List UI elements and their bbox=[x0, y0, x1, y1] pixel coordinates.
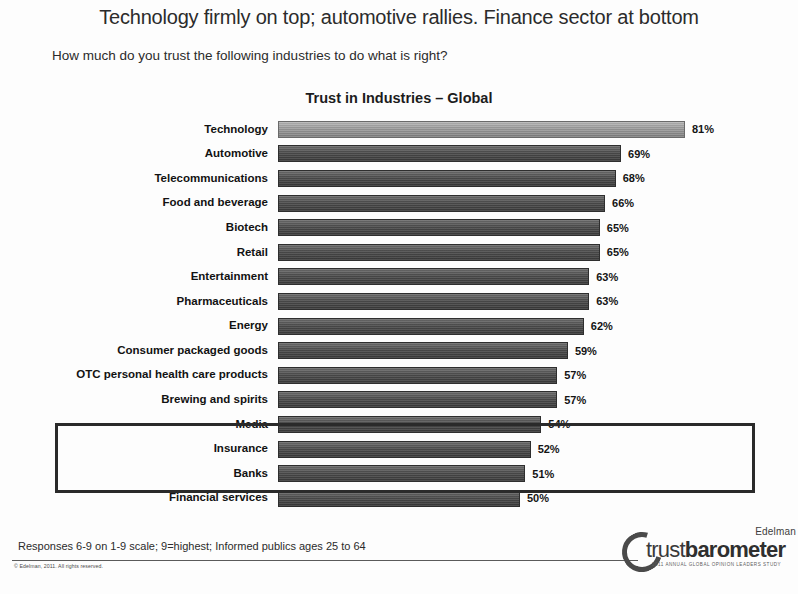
category-label: Energy bbox=[0, 320, 278, 332]
value-label: 81% bbox=[692, 123, 714, 135]
slide-headline: Technology firmly on top; automotive ral… bbox=[0, 6, 798, 29]
chart-row: Automotive69% bbox=[0, 142, 798, 167]
value-label: 68% bbox=[623, 172, 645, 184]
category-label: Banks bbox=[0, 468, 278, 480]
logo-wordmark: trustbarometer bbox=[646, 537, 785, 563]
category-label: Food and beverage bbox=[0, 197, 278, 209]
value-bar bbox=[278, 244, 600, 261]
logo-brand-label: Edelman bbox=[755, 526, 796, 537]
survey-question: How much do you trust the following indu… bbox=[52, 48, 447, 63]
bar-track: 66% bbox=[278, 191, 798, 216]
chart-row: Entertainment63% bbox=[0, 265, 798, 290]
chart-row: OTC personal health care products57% bbox=[0, 363, 798, 388]
value-bar bbox=[278, 195, 605, 212]
value-label: 52% bbox=[538, 443, 560, 455]
value-bar bbox=[278, 416, 541, 433]
bar-track: 51% bbox=[278, 461, 798, 486]
category-label: Financial services bbox=[0, 492, 278, 504]
value-bar bbox=[278, 293, 589, 310]
bar-track: 50% bbox=[278, 486, 798, 511]
value-bar bbox=[278, 268, 589, 285]
chart-row: Media54% bbox=[0, 412, 798, 437]
value-bar bbox=[278, 318, 584, 335]
category-label: Entertainment bbox=[0, 271, 278, 283]
chart-row: Technology81% bbox=[0, 117, 798, 142]
chart-title: Trust in Industries – Global bbox=[0, 90, 798, 106]
copyright-text: © Edelman, 2011. All rights reserved. bbox=[14, 563, 103, 569]
category-label: OTC personal health care products bbox=[0, 369, 278, 381]
value-label: 57% bbox=[564, 394, 586, 406]
chart-row: Pharmaceuticals63% bbox=[0, 289, 798, 314]
category-label: Pharmaceuticals bbox=[0, 296, 278, 308]
value-label: 50% bbox=[527, 492, 549, 504]
value-label: 63% bbox=[596, 295, 618, 307]
chart-row: Energy62% bbox=[0, 314, 798, 339]
value-bar bbox=[278, 391, 557, 408]
chart-row: Financial services50% bbox=[0, 486, 798, 511]
bar-track: 59% bbox=[278, 338, 798, 363]
logo-wordmark-bold: barometer bbox=[685, 537, 785, 562]
bar-track: 57% bbox=[278, 363, 798, 388]
value-label: 63% bbox=[596, 271, 618, 283]
value-label: 65% bbox=[607, 246, 629, 258]
category-label: Brewing and spirits bbox=[0, 394, 278, 406]
bar-track: 63% bbox=[278, 289, 798, 314]
category-label: Biotech bbox=[0, 222, 278, 234]
chart-row: Insurance52% bbox=[0, 437, 798, 462]
category-label: Insurance bbox=[0, 443, 278, 455]
value-bar bbox=[278, 490, 520, 507]
chart-row: Consumer packaged goods59% bbox=[0, 338, 798, 363]
bar-track: 81% bbox=[278, 117, 798, 142]
chart-row: Banks51% bbox=[0, 461, 798, 486]
slide-canvas: Technology firmly on top; automotive ral… bbox=[0, 0, 798, 594]
chart-row: Telecommunications68% bbox=[0, 166, 798, 191]
bar-track: 57% bbox=[278, 388, 798, 413]
category-label: Consumer packaged goods bbox=[0, 345, 278, 357]
value-label: 62% bbox=[591, 320, 613, 332]
value-label: 51% bbox=[532, 468, 554, 480]
bar-track: 65% bbox=[278, 215, 798, 240]
bar-track: 52% bbox=[278, 437, 798, 462]
methodology-footnote: Responses 6-9 on 1-9 scale; 9=highest; I… bbox=[18, 540, 366, 552]
value-bar bbox=[278, 170, 616, 187]
bar-chart: Technology81%Automotive69%Telecommunicat… bbox=[0, 117, 798, 495]
chart-row: Retail65% bbox=[0, 240, 798, 265]
value-bar bbox=[278, 145, 621, 162]
category-label: Telecommunications bbox=[0, 173, 278, 185]
chart-row: Brewing and spirits57% bbox=[0, 388, 798, 413]
bar-track: 65% bbox=[278, 240, 798, 265]
bar-track: 54% bbox=[278, 412, 798, 437]
category-label: Technology bbox=[0, 124, 278, 136]
value-label: 59% bbox=[575, 345, 597, 357]
bar-track: 63% bbox=[278, 265, 798, 290]
chart-row: Biotech65% bbox=[0, 215, 798, 240]
bar-track: 62% bbox=[278, 314, 798, 339]
chart-row: Food and beverage66% bbox=[0, 191, 798, 216]
logo-wordmark-light: trust bbox=[646, 537, 685, 562]
category-label: Retail bbox=[0, 247, 278, 259]
value-label: 69% bbox=[628, 148, 650, 160]
logo-tagline: 2011 ANNUAL GLOBAL OPINION LEADERS STUDY bbox=[652, 562, 781, 567]
edelman-trustbarometer-logo: Edelman trustbarometer 2011 ANNUAL GLOBA… bbox=[622, 524, 798, 580]
bar-track: 69% bbox=[278, 142, 798, 167]
value-bar bbox=[278, 367, 557, 384]
category-label: Automotive bbox=[0, 148, 278, 160]
value-label: 54% bbox=[548, 418, 570, 430]
value-bar bbox=[278, 121, 685, 138]
value-bar bbox=[278, 342, 568, 359]
value-bar bbox=[278, 441, 531, 458]
value-bar bbox=[278, 219, 600, 236]
footer-divider bbox=[12, 560, 638, 561]
value-label: 57% bbox=[564, 369, 586, 381]
category-label: Media bbox=[0, 419, 278, 431]
value-label: 65% bbox=[607, 222, 629, 234]
value-bar bbox=[278, 465, 525, 482]
value-label: 66% bbox=[612, 197, 634, 209]
bar-track: 68% bbox=[278, 166, 798, 191]
